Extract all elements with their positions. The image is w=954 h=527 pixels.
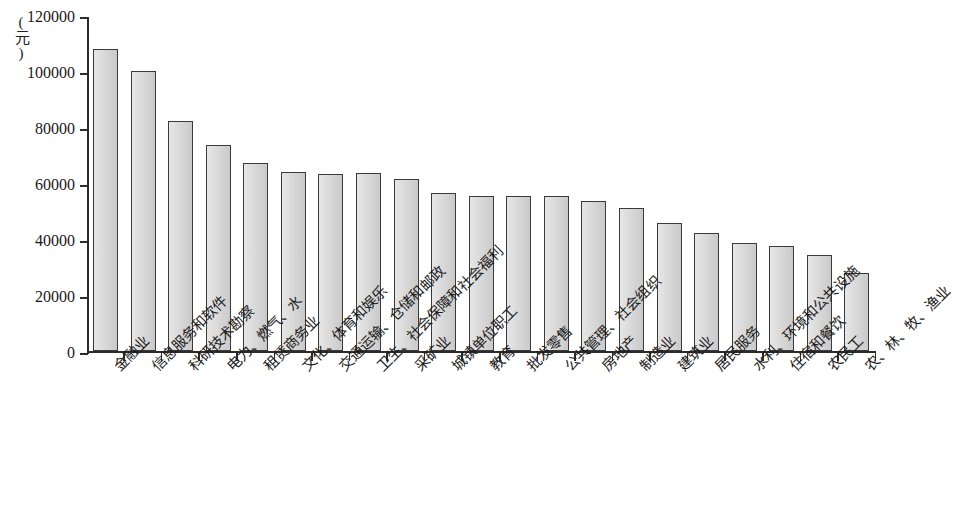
- x-axis-tick: [424, 353, 426, 361]
- bar: [431, 193, 456, 351]
- bar: [168, 121, 193, 351]
- y-axis-tick: 80000: [80, 129, 88, 131]
- x-axis-tick: [349, 353, 351, 361]
- y-axis-tick: 100000: [80, 73, 88, 75]
- x-axis-tick: [800, 353, 802, 361]
- y-axis-tick-label: 40000: [35, 231, 75, 250]
- x-axis-tick: [161, 353, 163, 361]
- x-axis-tick: [574, 353, 576, 361]
- y-axis-tick: 20000: [80, 297, 88, 299]
- x-axis-tick: [274, 353, 276, 361]
- bar: [544, 196, 569, 351]
- bar: [844, 273, 869, 351]
- y-axis-tick-label: 80000: [35, 119, 75, 138]
- x-axis-tick: [762, 353, 764, 361]
- bar: [243, 163, 268, 351]
- y-axis-tick: 120000: [80, 17, 88, 19]
- x-axis-tick: [461, 353, 463, 361]
- bar: [769, 246, 794, 351]
- bar: [131, 71, 156, 351]
- x-axis-tick: [687, 353, 689, 361]
- x-axis-tick: [236, 353, 238, 361]
- bar: [657, 223, 682, 351]
- bar: [394, 179, 419, 351]
- bar: [619, 208, 644, 351]
- bar: [93, 49, 118, 351]
- bar: [206, 145, 231, 351]
- x-axis-tick: [123, 353, 125, 361]
- bar: [807, 255, 832, 351]
- bar: [318, 174, 343, 351]
- y-axis-tick: 60000: [80, 185, 88, 187]
- bar: [281, 172, 306, 351]
- bar: [732, 243, 757, 351]
- y-axis-tick: 40000: [80, 241, 88, 243]
- y-axis-tick-label: 60000: [35, 175, 75, 194]
- x-axis-tick: [875, 353, 877, 361]
- bar: [506, 196, 531, 351]
- x-axis-tick: [537, 353, 539, 361]
- bar: [581, 201, 606, 351]
- y-axis-tick-label: 100000: [27, 63, 75, 82]
- y-axis-tick-label: 20000: [35, 287, 75, 306]
- plot-area: 020000400006000080000100000120000: [87, 17, 876, 353]
- bar: [469, 196, 494, 351]
- x-axis-tick: [724, 353, 726, 361]
- x-axis-tick: [649, 353, 651, 361]
- bar: [356, 173, 381, 351]
- y-axis-tick-label: 120000: [27, 7, 75, 26]
- y-axis-unit-label: (元): [2, 14, 28, 70]
- x-axis-line: [87, 351, 876, 353]
- y-axis-tick: 0: [80, 353, 88, 355]
- x-axis-tick: [612, 353, 614, 361]
- y-axis-tick-label: 0: [67, 343, 75, 362]
- x-axis-tick: [837, 353, 839, 361]
- x-axis-tick: [386, 353, 388, 361]
- x-axis-tick: [499, 353, 501, 361]
- x-axis-tick: [311, 353, 313, 361]
- x-axis-tick: [198, 353, 200, 361]
- bar: [694, 233, 719, 351]
